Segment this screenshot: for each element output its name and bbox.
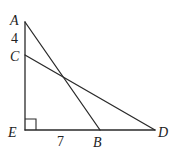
segment-cd — [25, 55, 155, 130]
point-label-a: A — [9, 13, 19, 28]
length-label-eb: 7 — [57, 134, 64, 149]
geometry-diagram: A 4 C E 7 B D — [0, 0, 175, 154]
right-angle-marker — [25, 119, 36, 130]
point-label-e: E — [7, 125, 17, 140]
point-label-b: B — [93, 135, 102, 150]
point-label-c: C — [10, 49, 20, 64]
length-label-ac: 4 — [11, 31, 18, 46]
point-label-d: D — [157, 125, 168, 140]
